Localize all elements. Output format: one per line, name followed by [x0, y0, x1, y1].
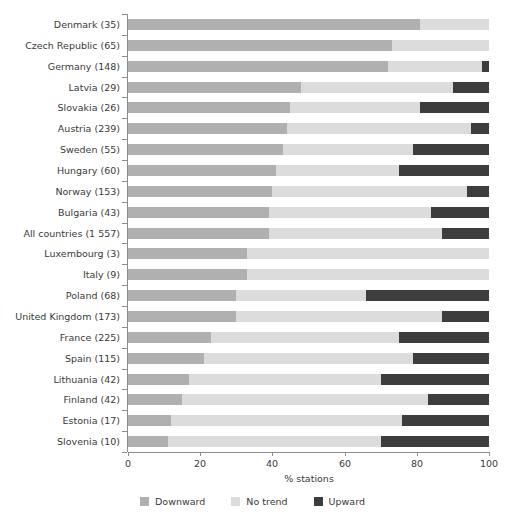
stacked-bar — [128, 394, 489, 405]
bar-row — [128, 436, 489, 447]
y-axis-tick — [122, 139, 127, 140]
bar-segment-upward — [467, 186, 489, 197]
bar-row — [128, 102, 489, 113]
stacked-bar — [128, 415, 489, 426]
stacked-bar — [128, 61, 489, 72]
bar-segment-no-trend — [388, 61, 482, 72]
category-label: Estonia (17) — [0, 415, 120, 426]
bar-segment-no-trend — [283, 144, 413, 155]
bar-segment-upward — [442, 228, 489, 239]
category-label: Latvia (29) — [0, 82, 120, 93]
bar-row — [128, 40, 489, 51]
bar-row — [128, 19, 489, 30]
bar-segment-upward — [442, 311, 489, 322]
category-label: United Kingdom (173) — [0, 311, 120, 322]
y-axis-tick — [122, 410, 127, 411]
category-label: Germany (148) — [0, 61, 120, 72]
y-axis-tick — [122, 181, 127, 182]
category-label: Luxembourg (3) — [0, 248, 120, 259]
bar-segment-upward — [381, 374, 489, 385]
bar-segment-downward — [128, 436, 168, 447]
legend-swatch-icon — [314, 497, 323, 506]
bar-segment-no-trend — [182, 394, 427, 405]
stacked-bar — [128, 144, 489, 155]
category-label: Poland (68) — [0, 290, 120, 301]
stacked-bar-chart: Denmark (35)Czech Republic (65)Germany (… — [0, 0, 505, 521]
bar-segment-no-trend — [236, 290, 366, 301]
bar-segment-no-trend — [290, 102, 420, 113]
bar-segment-downward — [128, 248, 247, 259]
category-label: Slovakia (26) — [0, 102, 120, 113]
stacked-bar — [128, 19, 489, 30]
bar-segment-downward — [128, 332, 211, 343]
bar-segment-no-trend — [301, 82, 453, 93]
chart-legend: DownwardNo trendUpward — [0, 496, 505, 507]
category-label: Norway (153) — [0, 186, 120, 197]
bar-segment-downward — [128, 144, 283, 155]
y-axis-tick — [122, 160, 127, 161]
bar-segment-upward — [420, 102, 489, 113]
bar-segment-upward — [399, 332, 489, 343]
bar-segment-no-trend — [269, 207, 431, 218]
category-label: Hungary (60) — [0, 165, 120, 176]
stacked-bar — [128, 207, 489, 218]
bar-segment-downward — [128, 374, 189, 385]
x-axis-tick-label: 40 — [252, 458, 292, 470]
x-axis-tick-label: 0 — [108, 458, 148, 470]
plot-area — [128, 14, 489, 452]
x-axis-title: % stations — [128, 473, 490, 484]
x-axis-tick — [200, 452, 201, 456]
bar-segment-upward — [471, 123, 489, 134]
bar-row — [128, 82, 489, 93]
legend-item: No trend — [231, 496, 287, 507]
y-axis-tick — [122, 97, 127, 98]
bar-segment-no-trend — [247, 269, 489, 280]
x-axis-tick-label: 100 — [469, 458, 505, 470]
y-axis-tick — [122, 285, 127, 286]
bar-segment-upward — [413, 353, 489, 364]
stacked-bar — [128, 332, 489, 343]
bar-segment-downward — [128, 353, 204, 364]
x-axis-tick — [417, 452, 418, 456]
bar-row — [128, 144, 489, 155]
bar-segment-no-trend — [269, 228, 442, 239]
stacked-bar — [128, 165, 489, 176]
bar-row — [128, 353, 489, 364]
y-axis-tick — [122, 35, 127, 36]
y-axis-tick — [122, 14, 127, 15]
x-axis-tick-label: 60 — [325, 458, 365, 470]
x-axis-tick — [272, 452, 273, 456]
stacked-bar — [128, 40, 489, 51]
bar-segment-downward — [128, 207, 269, 218]
bar-segment-upward — [366, 290, 489, 301]
bar-row — [128, 311, 489, 322]
bar-row — [128, 207, 489, 218]
x-axis-tick — [128, 452, 129, 456]
category-label: Spain (115) — [0, 353, 120, 364]
x-axis-line — [128, 452, 490, 453]
bar-segment-no-trend — [168, 436, 381, 447]
category-label: France (225) — [0, 332, 120, 343]
stacked-bar — [128, 311, 489, 322]
y-axis-tick — [122, 327, 127, 328]
bar-segment-downward — [128, 311, 236, 322]
bar-segment-downward — [128, 61, 388, 72]
bar-row — [128, 332, 489, 343]
bar-row — [128, 415, 489, 426]
bar-segment-no-trend — [171, 415, 402, 426]
bar-row — [128, 374, 489, 385]
stacked-bar — [128, 228, 489, 239]
bar-row — [128, 228, 489, 239]
bar-segment-downward — [128, 415, 171, 426]
category-label: Finland (42) — [0, 394, 120, 405]
y-axis-tick — [122, 77, 127, 78]
category-label: Lithuania (42) — [0, 374, 120, 385]
x-axis-tick — [489, 452, 490, 456]
bar-segment-no-trend — [287, 123, 471, 134]
stacked-bar — [128, 269, 489, 280]
bar-row — [128, 123, 489, 134]
stacked-bar — [128, 248, 489, 259]
y-axis-tick — [122, 348, 127, 349]
legend-swatch-icon — [140, 497, 149, 506]
bar-segment-upward — [428, 394, 489, 405]
